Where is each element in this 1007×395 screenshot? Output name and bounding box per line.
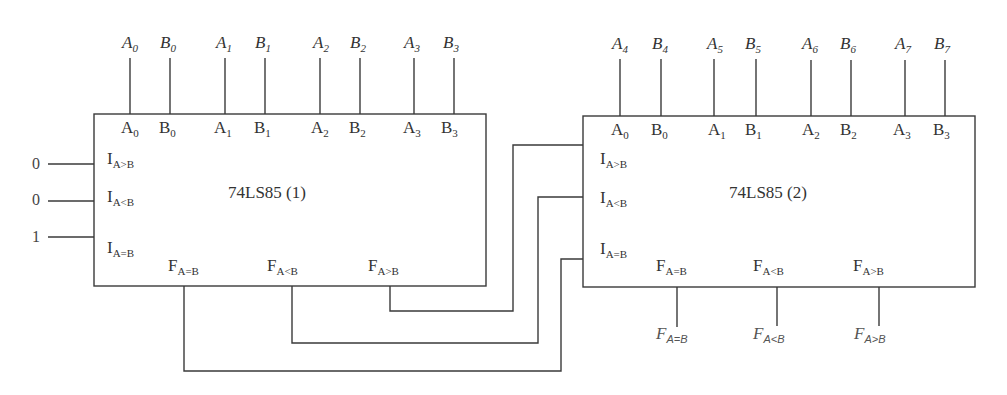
input-label-a6: A6 xyxy=(802,35,818,55)
input-label-b2: B2 xyxy=(350,34,366,54)
input-label-a7: A7 xyxy=(895,35,911,55)
final-out-less: FA<B xyxy=(753,325,785,345)
chip1-pin-a1: A1 xyxy=(214,119,232,139)
chip1-input-wires xyxy=(130,58,454,114)
chip2-out-greater: FA>B xyxy=(853,257,884,277)
chip1-pin-b3: B3 xyxy=(441,119,458,139)
chip2-pin-i-equal: IA=B xyxy=(600,240,627,260)
chip1-out-equal: FA=B xyxy=(168,257,199,277)
input-label-b0: B0 xyxy=(160,34,176,54)
chip1-title: 74LS85 (1) xyxy=(228,183,306,203)
chip1-out-greater: FA>B xyxy=(368,257,399,277)
chip1-cascade-wires xyxy=(48,164,94,237)
chip2-pin-a1: A1 xyxy=(708,121,726,141)
final-out-greater: FA>B xyxy=(854,325,886,345)
input-label-b4: B4 xyxy=(652,35,668,55)
const-i-less: 0 xyxy=(32,191,40,209)
chip2-pin-a2: A2 xyxy=(802,121,820,141)
chip2-pin-b3: B3 xyxy=(933,121,950,141)
chip1-pin-i-greater: IA>B xyxy=(107,150,134,170)
chip2-pin-b1: B1 xyxy=(745,121,762,141)
wire-f-less xyxy=(292,197,583,343)
chip1-pin-a0: A0 xyxy=(121,119,139,139)
chip2-out-equal: FA=B xyxy=(656,257,687,277)
chip2-pin-i-less: IA<B xyxy=(600,189,627,209)
chip2-pin-a0: A0 xyxy=(611,121,629,141)
chip2-pin-b0: B0 xyxy=(651,121,668,141)
input-label-a0: A0 xyxy=(122,34,138,54)
chip2-pin-a3: A3 xyxy=(893,121,911,141)
chip1-pin-b1: B1 xyxy=(254,119,271,139)
input-label-b5: B5 xyxy=(745,35,761,55)
chip1-out-less: FA<B xyxy=(267,257,298,277)
input-label-a2: A2 xyxy=(313,34,329,54)
chip1-pin-i-equal: IA=B xyxy=(107,239,134,259)
final-out-equal: FA=B xyxy=(656,325,688,345)
input-label-a4: A4 xyxy=(612,35,628,55)
input-label-b6: B6 xyxy=(840,35,856,55)
input-label-b1: B1 xyxy=(255,34,271,54)
input-label-a1: A1 xyxy=(216,34,232,54)
chip2-out-less: FA<B xyxy=(753,257,784,277)
const-i-equal: 1 xyxy=(32,228,40,246)
chip2-pin-i-greater: IA>B xyxy=(600,150,627,170)
chip1-pin-b2: B2 xyxy=(349,119,366,139)
chip1-pin-a2: A2 xyxy=(311,119,329,139)
input-label-b3: B3 xyxy=(443,34,459,54)
input-label-a3: A3 xyxy=(404,34,420,54)
input-label-b7: B7 xyxy=(934,35,950,55)
const-i-greater: 0 xyxy=(32,155,40,173)
chip1-pin-a3: A3 xyxy=(403,119,421,139)
chip1-pin-i-less: IA<B xyxy=(107,188,134,208)
chip2-output-wires xyxy=(677,287,879,327)
chip2-input-wires xyxy=(620,59,945,116)
input-label-a5: A5 xyxy=(707,35,723,55)
chip1-pin-b0: B0 xyxy=(159,119,176,139)
chip2-pin-b2: B2 xyxy=(840,121,857,141)
chip2-title: 74LS85 (2) xyxy=(729,183,807,203)
